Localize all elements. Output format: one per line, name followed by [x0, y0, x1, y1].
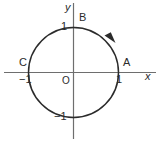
y-positive-tick-label: 1	[61, 21, 67, 32]
x-axis-label: x	[145, 71, 151, 82]
origin-label: O	[62, 76, 70, 86]
x-negative-tick-label: −1	[19, 74, 32, 85]
unit-circle-figure: y x 1 −1 1 −1 O A B C	[0, 0, 159, 145]
y-axis-label: y	[65, 2, 71, 13]
point-label-c: C	[19, 57, 27, 68]
point-label-a: A	[123, 57, 130, 68]
point-label-b: B	[79, 12, 86, 23]
x-positive-tick-label: 1	[116, 74, 122, 85]
y-negative-tick-label: −1	[54, 111, 67, 122]
